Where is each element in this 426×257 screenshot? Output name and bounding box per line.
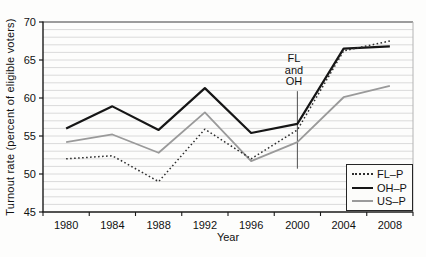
fl-oh-annotation: FL and OH	[285, 53, 303, 88]
annotation-text-line-1: FL	[285, 53, 303, 65]
x-axis-title: Year	[217, 231, 239, 243]
x-tick-label: 1988	[146, 219, 170, 231]
legend-item-us-p: US–P	[352, 195, 408, 207]
x-tick-label: 2000	[285, 219, 309, 231]
series-line-US–P	[66, 86, 390, 161]
y-tick-label: 60	[24, 92, 36, 104]
voter-turnout-figure: 4550556065701980198419881992199620002004…	[0, 0, 426, 257]
legend-label-us-p: US–P	[377, 195, 406, 207]
x-tick-label: 1984	[100, 219, 124, 231]
y-axis-title: Turnout rate (percent of eligible voters…	[4, 18, 16, 215]
turnout-line-chart: 4550556065701980198419881992199620002004…	[0, 0, 426, 257]
annotation-text-line-3: OH	[285, 76, 303, 88]
legend-label-oh-p: OH–P	[377, 182, 407, 194]
y-tick-label: 70	[24, 16, 36, 28]
x-tick-label: 1996	[239, 219, 263, 231]
x-tick-label: 2008	[378, 219, 402, 231]
x-tick-label: 1992	[193, 219, 217, 231]
solid-gray-line-icon	[352, 200, 373, 202]
x-tick-label: 2004	[331, 219, 355, 231]
x-tick-label: 1980	[54, 219, 78, 231]
legend-item-oh-p: OH–P	[352, 182, 408, 194]
legend-item-fl-p: FL–P	[352, 168, 408, 180]
y-tick-label: 45	[24, 206, 36, 218]
series-line-OH–P	[66, 46, 390, 133]
legend: FL–P OH–P US–P	[346, 164, 413, 211]
y-tick-label: 50	[24, 168, 36, 180]
y-tick-label: 55	[24, 130, 36, 142]
y-tick-label: 65	[24, 54, 36, 66]
dotted-line-icon	[352, 173, 373, 175]
legend-label-fl-p: FL–P	[377, 168, 403, 180]
solid-black-line-icon	[352, 187, 373, 189]
